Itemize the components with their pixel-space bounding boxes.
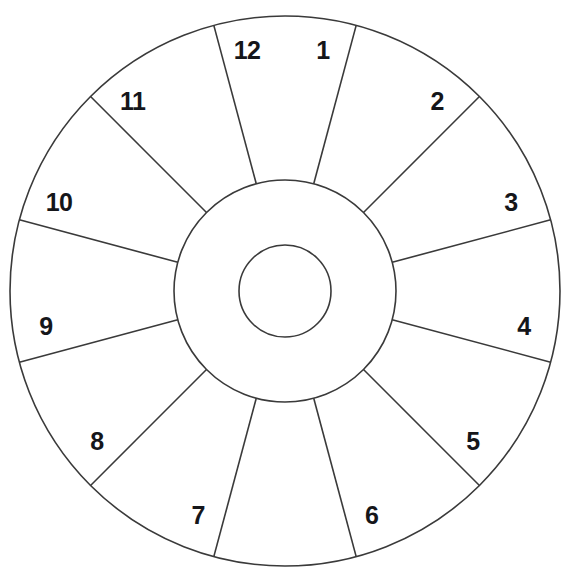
sector-label-11: 11 [120, 87, 146, 115]
inner-circle [239, 245, 331, 337]
sector-label-4: 4 [517, 312, 531, 340]
spoke-line-11 [91, 97, 207, 213]
spoke-line-5 [363, 369, 479, 485]
sector-label-12: 12 [234, 36, 261, 64]
sector-label-5: 5 [466, 427, 480, 455]
sector-label-6: 6 [365, 501, 378, 529]
sector-label-10: 10 [46, 188, 73, 216]
spoke-line-3 [392, 220, 550, 262]
spoke-line-10 [19, 220, 177, 262]
sector-label-3: 3 [504, 188, 517, 216]
sector-label-2: 2 [431, 87, 444, 115]
sector-label-group: 123456789101112 [39, 36, 531, 529]
spoke-line-7 [214, 398, 256, 556]
spoke-line-2 [363, 97, 479, 213]
wheel-diagram: 123456789101112 [0, 0, 572, 581]
wheel-canvas: 123456789101112 [0, 0, 572, 581]
sector-label-7: 7 [192, 501, 205, 529]
sector-label-8: 8 [90, 427, 104, 455]
sector-label-9: 9 [39, 312, 52, 340]
sector-label-1: 1 [316, 36, 330, 64]
spoke-line-6 [314, 398, 356, 556]
middle-circle [174, 180, 396, 402]
spoke-group [19, 25, 550, 556]
spoke-line-8 [91, 369, 207, 485]
